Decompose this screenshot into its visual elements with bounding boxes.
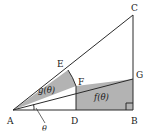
label-region-g: g(θ) xyxy=(38,85,55,95)
label-point-F: F xyxy=(78,77,84,87)
label-point-A: A xyxy=(6,116,14,126)
label-point-G: G xyxy=(136,70,143,80)
label-point-B: B xyxy=(131,116,138,126)
label-point-D: D xyxy=(71,116,78,126)
label-point-E: E xyxy=(57,59,64,69)
label-angle-theta: θ xyxy=(42,124,47,133)
label-region-f: f(θ) xyxy=(93,92,109,102)
diagram-canvas: A B C D E F G g(θ) f(θ) θ xyxy=(0,0,157,133)
geometry-figure: A B C D E F G g(θ) f(θ) θ xyxy=(0,0,157,133)
label-point-C: C xyxy=(131,3,138,13)
